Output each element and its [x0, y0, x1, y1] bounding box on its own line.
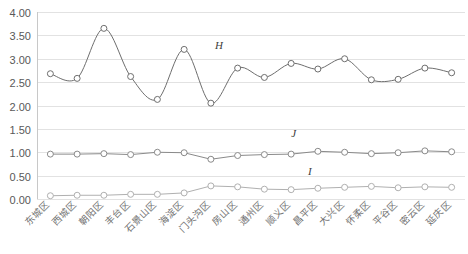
series-line-h: [50, 28, 451, 103]
data-point-marker: [395, 185, 401, 191]
x-axis-tick-label: 通州区: [237, 199, 266, 228]
x-axis-tick-label: 昌平区: [290, 199, 319, 228]
data-point-marker: [422, 184, 428, 190]
y-axis-tick-label: 2.50: [10, 77, 31, 89]
data-point-marker: [74, 75, 80, 81]
data-point-marker: [449, 149, 455, 155]
x-axis-tick-label: 大兴区: [317, 199, 346, 228]
data-point-marker: [288, 60, 294, 66]
data-point-marker: [101, 192, 107, 198]
data-point-marker: [342, 184, 348, 190]
data-point-marker: [181, 46, 187, 52]
y-axis-tick-label: 3.00: [10, 54, 31, 66]
series-lines: [50, 28, 451, 195]
y-axis-tick-label: 3.50: [10, 30, 31, 42]
x-axis-tick-label: 房山区: [210, 199, 239, 228]
data-point-marker: [395, 150, 401, 156]
data-point-marker: [47, 71, 53, 77]
data-point-marker: [154, 149, 160, 155]
data-point-marker: [128, 74, 134, 80]
data-point-marker: [342, 149, 348, 155]
data-point-marker: [368, 77, 374, 83]
data-point-marker: [235, 153, 241, 159]
data-point-marker: [181, 150, 187, 156]
data-point-marker: [261, 152, 267, 158]
y-axis-labels: 0.000.501.001.502.002.503.003.504.00: [10, 7, 31, 206]
data-point-marker: [154, 191, 160, 197]
data-point-marker: [235, 65, 241, 71]
data-point-marker: [47, 193, 53, 199]
data-point-marker: [315, 185, 321, 191]
data-point-marker: [128, 152, 134, 158]
y-axis-tick-label: 4.00: [10, 7, 31, 19]
data-point-marker: [422, 148, 428, 154]
x-axis-tick-label: 朝阳区: [76, 199, 105, 228]
data-point-marker: [315, 148, 321, 154]
data-point-marker: [449, 70, 455, 76]
gridlines: [37, 13, 465, 200]
data-point-marker: [342, 56, 348, 62]
x-axis-tick-label: 顺义区: [264, 199, 293, 228]
data-point-marker: [47, 151, 53, 157]
data-point-marker: [208, 183, 214, 189]
x-axis-tick-label: 西城区: [50, 199, 79, 228]
data-point-marker: [74, 192, 80, 198]
line-chart: 0.000.501.001.502.002.503.003.504.00 HJI…: [0, 0, 468, 254]
series-label-h: H: [214, 39, 224, 51]
series-markers: [47, 25, 454, 198]
data-point-marker: [101, 25, 107, 31]
data-point-marker: [315, 66, 321, 72]
data-point-marker: [208, 100, 214, 106]
x-axis-tick-label: 平谷区: [371, 199, 400, 228]
data-point-marker: [395, 76, 401, 82]
data-point-marker: [74, 151, 80, 157]
x-axis-tick-label: 怀柔区: [344, 199, 373, 228]
data-point-marker: [181, 190, 187, 196]
y-axis-tick-label: 2.00: [10, 101, 31, 113]
data-point-marker: [101, 151, 107, 157]
y-axis-tick-label: 0.50: [10, 171, 31, 183]
data-point-marker: [235, 184, 241, 190]
data-point-marker: [368, 151, 374, 157]
y-axis-tick-label: 1.50: [10, 124, 31, 136]
data-point-marker: [261, 74, 267, 80]
data-point-marker: [449, 184, 455, 190]
data-point-marker: [368, 183, 374, 189]
data-point-marker: [128, 191, 134, 197]
data-point-marker: [422, 65, 428, 71]
chart-container: 0.000.501.001.502.002.503.003.504.00 HJI…: [0, 0, 468, 254]
y-axis-tick-label: 1.00: [10, 147, 31, 159]
y-axis-tick-label: 0.00: [10, 194, 31, 206]
data-point-marker: [288, 187, 294, 193]
series-label-i: I: [307, 165, 313, 177]
data-point-marker: [288, 151, 294, 157]
data-point-marker: [261, 186, 267, 192]
x-axis-labels: 东城区西城区朝阳区丰台区石景山区海淀区门头沟区房山区通州区顺义区昌平区大兴区怀柔…: [23, 199, 453, 235]
x-axis-tick-label: 延庆区: [424, 199, 453, 228]
data-point-marker: [154, 96, 160, 102]
x-axis-tick-label: 密云区: [397, 199, 426, 228]
series-line-i: [50, 186, 451, 196]
data-point-marker: [208, 156, 214, 162]
series-label-j: J: [291, 127, 297, 139]
